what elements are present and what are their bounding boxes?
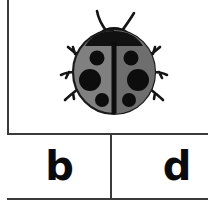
ladybug-spot [122, 93, 136, 107]
answer-letter-b: b [45, 146, 74, 186]
ladybug-spot [90, 51, 105, 66]
ladybug-spot [95, 93, 109, 107]
answer-letter-d: d [163, 146, 192, 186]
worksheet-card: b d [0, 0, 208, 221]
ladybug-spot [79, 69, 101, 91]
ladybug-icon [59, 6, 169, 124]
picture-cell [9, 0, 208, 133]
answer-choice-b[interactable]: b [7, 135, 110, 198]
ladybug-spot [127, 69, 149, 91]
answer-choice-d[interactable]: d [112, 135, 208, 198]
ladybug-wing-seam-bar [112, 42, 117, 114]
card-bottom-border [7, 198, 208, 200]
ladybug-spot [124, 51, 139, 66]
answer-choice-row: b d [7, 135, 208, 198]
